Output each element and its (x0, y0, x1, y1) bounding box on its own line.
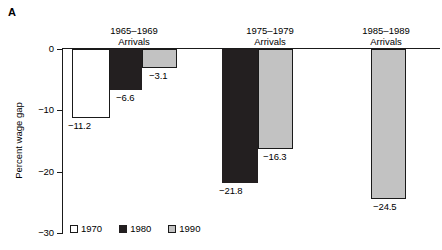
legend-swatch-icon-1980 (119, 225, 127, 233)
bar-1985-1989-1990[interactable] (371, 49, 406, 199)
group-header-1965-1969: 1965–1969 Arrivals (78, 25, 190, 47)
bar-1965-1969-1980[interactable] (110, 49, 142, 90)
y-tick-label-3: −30 (20, 228, 54, 238)
bar-chart: 0 −10 −20 −30 Percent wage gap 1965–1969… (0, 0, 442, 250)
y-tick-label-2: −20 (20, 167, 54, 177)
legend-swatch-icon-1990 (168, 225, 176, 233)
group-header-line2: Arrivals (78, 36, 190, 47)
bar-value-1965-1969-1990: −3.1 (149, 71, 167, 81)
y-tick-2 (57, 172, 63, 173)
bar-1975-1979-1980[interactable] (222, 49, 258, 183)
bar-value-1975-1979-1980: −21.8 (219, 186, 243, 196)
bar-1975-1979-1990[interactable] (258, 49, 293, 149)
figure-panel-a: A 0 −10 −20 −30 Percent wage gap 1965–19… (0, 0, 442, 250)
legend-item-1980[interactable]: 1980 (119, 224, 151, 234)
group-header-line2: Arrivals (214, 36, 326, 47)
y-tick-3 (57, 233, 63, 234)
bar-value-1985-1989-1990: −24.5 (373, 202, 397, 212)
bar-1965-1969-1990[interactable] (142, 49, 177, 68)
group-header-line1: 1975–1979 (214, 25, 326, 36)
bar-value-1965-1969-1980: −6.6 (116, 93, 134, 103)
bar-value-1975-1979-1990: −16.3 (263, 152, 287, 162)
y-tick-label-0: 0 (20, 44, 54, 54)
legend: 1970 1980 1990 (70, 224, 200, 234)
legend-label-1990: 1990 (179, 224, 200, 234)
bar-value-1965-1969-1970: −11.2 (68, 121, 91, 131)
legend-item-1970[interactable]: 1970 (70, 224, 102, 234)
legend-swatch-icon-1970 (70, 225, 78, 233)
group-header-line1: 1965–1969 (78, 25, 190, 36)
y-tick-0 (57, 49, 63, 50)
group-header-line2: Arrivals (330, 36, 442, 47)
legend-item-1990[interactable]: 1990 (168, 224, 200, 234)
y-axis-title: Percent wage gap (13, 71, 24, 211)
y-axis-line (62, 49, 63, 233)
group-header-line1: 1985–1989 (330, 25, 442, 36)
bar-1965-1969-1970[interactable] (72, 49, 110, 118)
y-tick-label-1: −10 (20, 105, 54, 115)
legend-label-1980: 1980 (130, 224, 151, 234)
legend-label-1970: 1970 (81, 224, 102, 234)
group-header-1975-1979: 1975–1979 Arrivals (214, 25, 326, 47)
y-tick-1 (57, 110, 63, 111)
group-header-1985-1989: 1985–1989 Arrivals (330, 25, 442, 47)
